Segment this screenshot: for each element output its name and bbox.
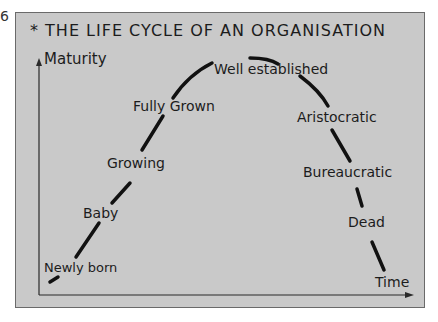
stage-label-growing: Growing <box>107 155 165 171</box>
y-axis-arrow-icon <box>36 58 42 66</box>
stage-label-fully-grown: Fully Grown <box>133 98 215 114</box>
stage-label-well-established: Well established <box>214 61 328 77</box>
diagram-title: * THE LIFE CYCLE OF AN ORGANISATION <box>30 21 386 40</box>
life-cycle-diagram: * THE LIFE CYCLE OF AN ORGANISATION Matu… <box>0 0 438 322</box>
x-axis-arrow-icon <box>405 292 414 298</box>
stage-label-aristocratic: Aristocratic <box>297 109 377 125</box>
y-axis-label: Maturity <box>44 50 107 68</box>
stage-label-dead: Dead <box>348 214 385 230</box>
stage-label-newly-born: Newly born <box>44 260 117 275</box>
stage-label-baby: Baby <box>83 205 118 221</box>
x-axis-label: Time <box>374 274 409 290</box>
stage-label-bureaucratic: Bureaucratic <box>303 164 392 180</box>
